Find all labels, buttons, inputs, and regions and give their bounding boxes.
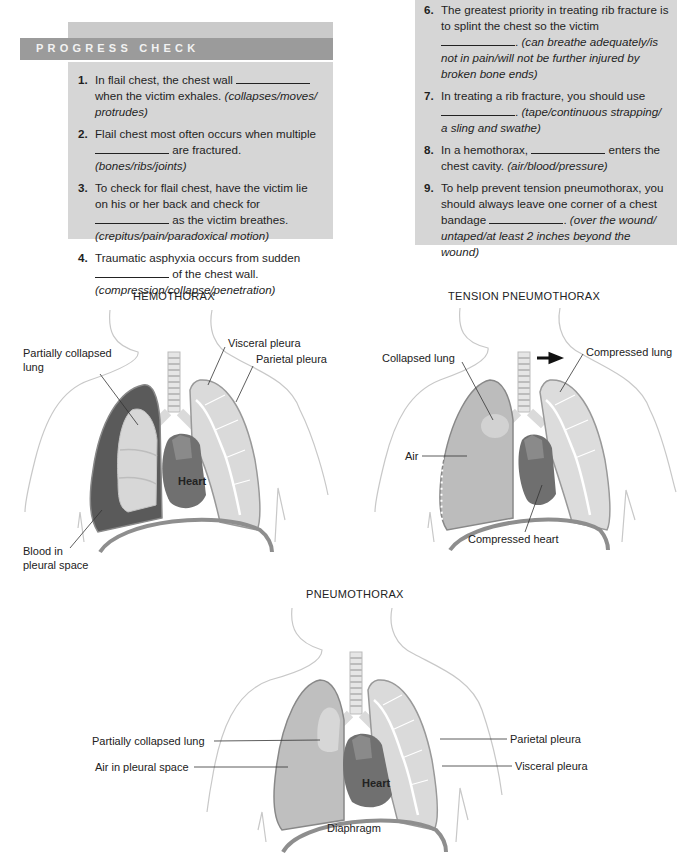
question-number: 8.: [424, 142, 434, 158]
question-text: when the victim exhales.: [95, 89, 221, 102]
label-air-pleural-space: Air in pleural space: [95, 761, 189, 773]
question-text: To check for flail chest, have the victi…: [95, 181, 308, 210]
question-8: 8.In a hemothorax, enters the chest cavi…: [424, 142, 669, 174]
question-2: 2.Flail chest most often occurs when mul…: [78, 126, 323, 174]
answer-options: (bones/ribs/joints): [95, 159, 187, 172]
question-text: In treating a rib fracture, you should u…: [441, 89, 645, 102]
label-visceral-pleura: Visceral pleura: [515, 760, 588, 772]
heart-label: Heart: [178, 475, 206, 487]
progress-check-header: PROGRESS CHECK: [20, 38, 333, 60]
label-compressed-lung: Compressed lung: [586, 346, 672, 358]
question-text: of the chest wall.: [172, 267, 258, 280]
question-text: are fractured.: [172, 143, 241, 156]
answer-blank[interactable]: [95, 266, 169, 278]
question-number: 4.: [78, 250, 88, 266]
question-1: 1.In flail chest, the chest wall when th…: [78, 72, 323, 120]
pneumothorax-figure: PNEUMOTHORAX Heart Diaphragm Partially c…: [0, 580, 698, 868]
answer-blank[interactable]: [441, 34, 515, 46]
question-9: 9.To help prevent tension pneumothorax, …: [424, 180, 669, 260]
compressed-heart: [519, 434, 556, 505]
question-number: 1.: [78, 72, 88, 88]
answer-options: (air/blood/pressure): [507, 159, 608, 172]
label-air: Air: [405, 450, 419, 462]
figure-title: TENSION PNEUMOTHORAX: [448, 290, 600, 302]
question-6: 6.The greatest priority in treating rib …: [424, 2, 669, 82]
question-number: 7.: [424, 88, 434, 104]
tension-pneumothorax-figure: TENSION PNEUMOTHORAX Collapsed lung Comp…: [350, 280, 698, 580]
answer-blank[interactable]: [441, 104, 515, 116]
progress-check-right: 6.The greatest priority in treating rib …: [415, 0, 677, 245]
answer-options: (crepitus/pain/paradoxical motion): [95, 229, 269, 242]
right-arrow-icon: [537, 354, 560, 362]
label-partially-collapsed: Partially collapsed: [23, 347, 112, 359]
label-compressed-heart: Compressed heart: [468, 533, 559, 545]
heart-label: Heart: [362, 777, 390, 789]
collapsed-lung: [481, 414, 509, 438]
air-pleural-space: [440, 380, 513, 530]
question-3: 3.To check for flail chest, have the vic…: [78, 180, 323, 244]
answer-blank[interactable]: [531, 142, 605, 154]
question-text: .: [563, 213, 566, 226]
header-strip: [68, 22, 333, 38]
question-text: Traumatic asphyxia occurs from sudden: [95, 251, 300, 264]
air-pleural-space: [274, 680, 344, 830]
question-text: .: [515, 105, 518, 118]
question-text: Flail chest most often occurs when multi…: [95, 127, 316, 140]
label-pleural-space: pleural space: [23, 559, 88, 571]
question-number: 6.: [424, 2, 434, 18]
label-collapsed-lung: Collapsed lung: [382, 352, 455, 364]
answer-blank[interactable]: [236, 72, 310, 84]
progress-check-left: 1.In flail chest, the chest wall when th…: [68, 62, 333, 239]
label-visceral-pleura: Visceral pleura: [228, 337, 301, 349]
label-lung: lung: [23, 361, 44, 373]
question-text: .: [515, 35, 518, 48]
progress-check-title: PROGRESS CHECK: [36, 42, 199, 54]
question-7: 7.In treating a rib fracture, you should…: [424, 88, 669, 136]
question-number: 3.: [78, 180, 88, 196]
answer-blank[interactable]: [95, 142, 169, 154]
label-parietal-pleura: Parietal pleura: [256, 353, 328, 365]
figure-title: PNEUMOTHORAX: [306, 588, 404, 600]
figure-title: HEMOTHORAX: [133, 290, 215, 302]
heart: Heart: [162, 434, 206, 509]
question-number: 2.: [78, 126, 88, 142]
answer-blank[interactable]: [95, 212, 169, 224]
hemothorax-figure: HEMOTHORAX Heart Partially collapsed lun…: [0, 280, 350, 590]
label-partially-collapsed-lung: Partially collapsed lung: [92, 735, 205, 747]
question-text: In a hemothorax,: [441, 143, 528, 156]
label-diaphragm: Diaphragm: [327, 822, 381, 834]
label-blood: Blood in: [23, 545, 63, 557]
question-text: The greatest priority in treating rib fr…: [441, 3, 668, 32]
answer-blank[interactable]: [489, 212, 563, 224]
question-number: 9.: [424, 180, 434, 196]
question-text: In flail chest, the chest wall: [95, 73, 233, 86]
label-parietal-pleura: Parietal pleura: [510, 733, 582, 745]
question-text: as the victim breathes.: [172, 213, 288, 226]
